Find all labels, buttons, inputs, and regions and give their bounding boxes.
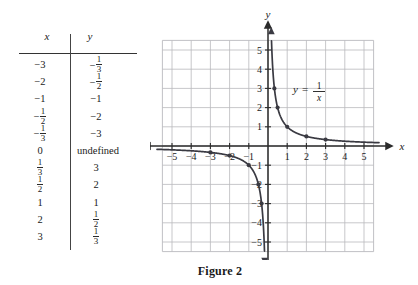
- fraction: 12: [37, 175, 44, 194]
- fraction: 13: [40, 124, 47, 143]
- data-point: (−2, −1/2): [228, 154, 232, 158]
- table-row: −2−12: [14, 73, 142, 90]
- x-axis-arrow-right: [385, 142, 394, 150]
- x-tick-label: −4: [186, 151, 197, 162]
- data-point: (2, 1/2): [304, 134, 308, 138]
- table-header-row: x y: [14, 30, 142, 50]
- table-row: 212: [14, 211, 142, 228]
- fraction: 13: [93, 227, 100, 246]
- table-row: 313: [14, 228, 142, 245]
- data-point: (1/3, 3): [272, 86, 276, 90]
- table-cell-y: undefined: [62, 142, 134, 159]
- table-row: −3−13: [14, 56, 142, 73]
- y-axis-label: y: [265, 8, 271, 20]
- x-tick-label: 2: [304, 151, 309, 162]
- table-cell-y: −1: [70, 90, 122, 107]
- y-tick-label: −5: [251, 237, 262, 248]
- table-cell-y: 2: [70, 176, 122, 193]
- data-point: (3, 1/3): [324, 138, 328, 142]
- graph-panel: −5−4−3−2−11234554321−1−2−3−4−5 (−3, −1/3…: [150, 2, 418, 260]
- table-cell-y: −2: [70, 108, 122, 125]
- x-tick-label: 3: [323, 151, 328, 162]
- y-axis-arrow-up: [264, 20, 272, 29]
- equation-lhs: y: [292, 83, 298, 95]
- table-cell-x: 3: [14, 228, 66, 245]
- table-cell-x: −2: [14, 73, 66, 90]
- table-row: −13−3: [14, 125, 142, 142]
- table-header-y: y: [75, 30, 105, 42]
- data-point: (−1/3, −3): [260, 202, 264, 206]
- data-point: (−1, −1): [247, 163, 251, 167]
- data-point: (−1/2, −2): [256, 182, 260, 186]
- table-cell-x: −3: [14, 56, 66, 73]
- y-tick-label: 4: [257, 64, 262, 75]
- table-row: 11: [14, 194, 142, 211]
- graph-of-y-equals-one-over-x: −5−4−3−2−11234554321−1−2−3−4−5 (−3, −1/3…: [150, 2, 418, 260]
- x-tick-label: 4: [342, 151, 347, 162]
- y-tick-label: 5: [257, 45, 262, 56]
- table-cell-y: 13: [70, 228, 122, 247]
- x-axis-label: x: [399, 140, 405, 152]
- equation-denominator: x: [316, 93, 322, 103]
- figure-caption: Figure 2: [155, 264, 285, 279]
- table-cell-y: 3: [70, 159, 122, 176]
- x-axis-arrow-left: [150, 142, 151, 150]
- table-cell-y: −3: [70, 125, 122, 142]
- y-tick-label: 3: [257, 83, 262, 94]
- y-tick-label: 2: [257, 102, 262, 113]
- table-cell-x: 2: [14, 211, 66, 228]
- table-row: 133: [14, 159, 142, 176]
- table-row: 122: [14, 176, 142, 193]
- table-cell-x: −1: [14, 90, 66, 107]
- equation-label: y = 1 x: [292, 81, 325, 103]
- data-point: (−3, −1/3): [208, 150, 212, 154]
- data-point: (1/2, 2): [276, 106, 280, 110]
- fraction: 12: [96, 72, 103, 91]
- table-header-x: x: [32, 30, 62, 42]
- x-tick-label: −5: [167, 151, 178, 162]
- table-row: −12−2: [14, 108, 142, 125]
- table-row: 0undefined: [14, 142, 142, 159]
- table-body: −3−13−2−12−1−1−12−2−13−30undefined133122…: [14, 56, 142, 245]
- data-point: (1, 1): [285, 125, 289, 129]
- x-tick-label: 1: [285, 151, 290, 162]
- equation-equals-sign: =: [302, 83, 308, 95]
- equation-numerator: 1: [317, 81, 322, 91]
- table-of-values: x y −3−13−2−12−1−1−12−2−13−30undefined13…: [14, 30, 142, 50]
- curve-arrow-down: [261, 258, 268, 260]
- y-tick-label: −4: [251, 217, 262, 228]
- x-tick-label: 5: [362, 151, 367, 162]
- table-cell-x: 1: [14, 194, 66, 211]
- table-row: −1−1: [14, 90, 142, 107]
- table-header-rule: [19, 53, 137, 54]
- y-tick-label: 1: [257, 121, 262, 132]
